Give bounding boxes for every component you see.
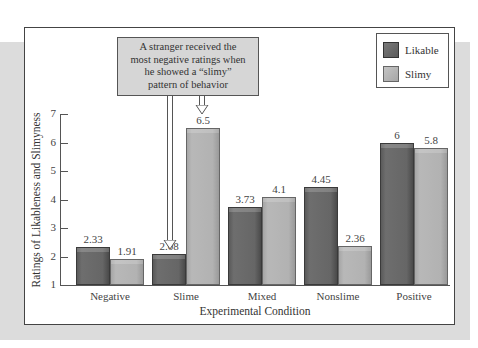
x-axis-title: Experimental Condition [200,305,311,317]
y-tick [60,114,68,115]
bar-positive-slimy [414,148,448,285]
annotation-line: pattern of behavior [118,79,258,92]
x-category-label: Slime [173,290,199,302]
legend-label: Likable [405,44,439,56]
value-label: 1.91 [117,245,136,257]
value-label: 3.73 [235,193,254,205]
legend-item-slimy: Slimy [383,66,431,82]
bar-nonslime-slimy [338,246,372,285]
arrow-down-icon [163,240,177,250]
y-tick-label: 6 [46,137,56,148]
bar-slime-likable [152,254,186,285]
bar-nonslime-likable [304,187,338,285]
y-tick [60,171,68,172]
arrow-down-icon [195,105,209,115]
value-label: 6.5 [196,114,210,126]
y-tick-label: 1 [46,279,56,290]
legend: Likable Slimy [376,33,449,88]
bar-negative-likable [76,247,110,285]
x-axis-line [60,285,450,286]
y-tick [60,143,68,144]
bar-slime-slimy [186,128,220,285]
x-category-label: Positive [396,290,431,302]
value-label: 6 [394,129,400,141]
legend-label: Slimy [405,68,431,80]
y-tick-label: 5 [46,165,56,176]
y-tick [60,228,68,229]
legend-swatch-slimy [383,66,399,82]
x-category-label: Mixed [248,290,277,302]
bar-mixed-slimy [262,197,296,285]
y-tick-label: 3 [46,222,56,233]
y-tick [60,257,68,258]
y-axis-title: Ratings of Likableness and Slimyness [30,112,42,287]
value-label: 4.1 [272,183,286,195]
value-label: 2.33 [83,233,102,245]
annotation-line: he showed a “slimy” [118,66,258,79]
value-label: 5.8 [424,134,438,146]
annotation-line: most negative ratings when [118,54,258,67]
y-tick-label: 2 [46,251,56,262]
bar-positive-likable [380,143,414,286]
legend-item-likable: Likable [383,42,439,58]
arrow-long-shaft [167,96,173,242]
x-category-label: Negative [90,290,130,302]
bar-mixed-likable [228,207,262,285]
annotation-line: A stranger received the [118,41,258,54]
x-category-label: Nonslime [317,290,360,302]
value-label: 2.36 [345,232,364,244]
bar-negative-slimy [110,259,144,285]
y-tick-label: 4 [46,194,56,205]
y-tick-label: 7 [46,108,56,119]
value-label: 4.45 [311,173,330,185]
legend-swatch-likable [383,42,399,58]
y-tick [60,285,68,286]
annotation-callout: A stranger received the most negative ra… [117,37,259,96]
y-tick [60,200,68,201]
